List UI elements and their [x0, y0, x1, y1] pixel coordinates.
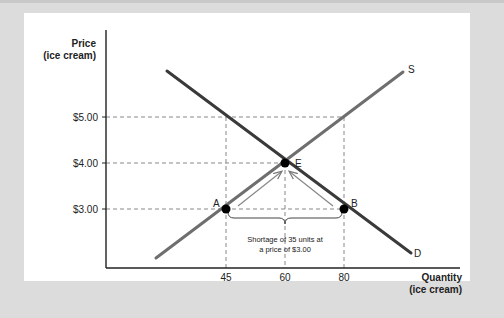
supply-curve	[156, 72, 403, 258]
shortage-note-line2: a price of $3.00	[259, 245, 311, 254]
y-tick-5: $5.00	[73, 112, 98, 123]
point-a-label: A	[213, 198, 220, 209]
arrow-a-to-e	[238, 172, 281, 206]
point-b	[340, 205, 349, 214]
demand-label: D	[414, 248, 421, 259]
point-a	[222, 205, 231, 214]
y-tick-4: $4.00	[73, 158, 98, 169]
x-tick-45: 45	[220, 272, 232, 283]
point-b-label: B	[351, 198, 358, 209]
y-tick-3: $3.00	[73, 204, 98, 215]
x-tick-80: 80	[338, 272, 350, 283]
y-axis-title-line1: Price	[72, 38, 97, 49]
x-tick-60: 60	[279, 272, 291, 283]
point-e	[281, 159, 290, 168]
x-axis-title-line1: Quantity	[421, 272, 462, 283]
x-axis-title-line2: (ice cream)	[409, 284, 462, 295]
shortage-note-line1: Shortage of 35 units at	[247, 235, 323, 244]
point-e-label: E	[295, 158, 302, 169]
supply-label: S	[408, 64, 415, 75]
supply-demand-chart: Price (ice cream) $5.00 $4.00 $3.00 45 6…	[0, 0, 504, 318]
y-axis-title-line2: (ice cream)	[43, 50, 96, 61]
